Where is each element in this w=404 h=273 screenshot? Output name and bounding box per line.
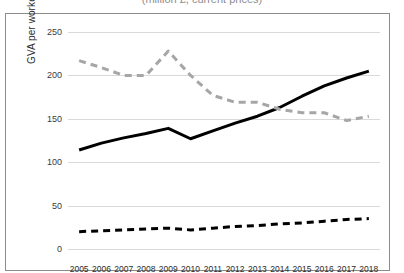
chart-frame: GVA per worker 050100150200250 200520062… (5, 13, 390, 271)
x-axis-tick-label: 2013 (246, 264, 268, 273)
series-layer (68, 32, 380, 249)
x-axis-tick-label: 2015 (291, 264, 313, 273)
gridline (68, 249, 380, 250)
y-axis-tick-label: 200 (47, 70, 62, 80)
x-axis-tick-label: 2006 (90, 264, 112, 273)
chart-title-text: (million £, current prices) (0, 0, 404, 5)
x-axis-tick-label: 2017 (335, 264, 357, 273)
x-axis-tick-label: 2010 (179, 264, 201, 273)
plot-area: 050100150200250 (68, 32, 380, 249)
x-axis-tick-label: 2009 (157, 264, 179, 273)
y-axis-tick-label: 0 (57, 244, 62, 254)
x-axis-tick-label: 2018 (358, 264, 380, 273)
y-axis-title: GVA per worker (26, 0, 37, 64)
x-axis-tick-label: 2011 (202, 264, 224, 273)
chart-title-clipped: (million £, current prices) (0, 0, 404, 12)
y-axis-tick-label: 150 (47, 114, 62, 124)
x-axis-tick-label: 2007 (113, 264, 135, 273)
x-axis-ticks: 2005200620072008200920102011201220132014… (68, 264, 380, 273)
x-axis-tick-label: 2014 (269, 264, 291, 273)
series-solid-black (79, 71, 369, 150)
y-axis-tick-label: 100 (47, 157, 62, 167)
x-axis-tick-label: 2012 (224, 264, 246, 273)
x-axis-tick-label: 2016 (313, 264, 335, 273)
y-axis-tick-label: 250 (47, 27, 62, 37)
x-axis-tick-label: 2008 (135, 264, 157, 273)
series-dashed-black (79, 219, 369, 232)
y-axis-tick-label: 50 (52, 201, 62, 211)
x-axis-tick-label: 2005 (68, 264, 90, 273)
